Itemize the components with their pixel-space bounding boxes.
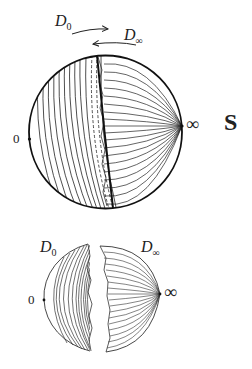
arrow-dinf-left [93, 43, 136, 45]
dinf-foliation [104, 64, 182, 205]
label-bottom-infinity: ∞ [164, 283, 177, 301]
point-infinity [180, 124, 183, 127]
d0-piece [43, 244, 92, 351]
label-sphere-s: S [224, 110, 237, 134]
bottom-point-zero [43, 299, 46, 302]
label-bottom-zero: 0 [28, 293, 35, 306]
diagram-canvas [0, 0, 252, 369]
sphere-s [28, 55, 184, 212]
label-dinf: D∞ [124, 27, 143, 43]
arrow-d0-right [72, 29, 108, 34]
label-bottom-d0: D0 [40, 239, 57, 255]
label-infinity: ∞ [186, 115, 199, 133]
label-bottom-dinf: D∞ [141, 239, 160, 255]
bottom-point-infinity [159, 293, 162, 296]
point-zero [28, 137, 31, 140]
label-d0: D0 [55, 13, 72, 29]
label-zero: 0 [13, 132, 20, 145]
dinf-piece [100, 246, 161, 352]
